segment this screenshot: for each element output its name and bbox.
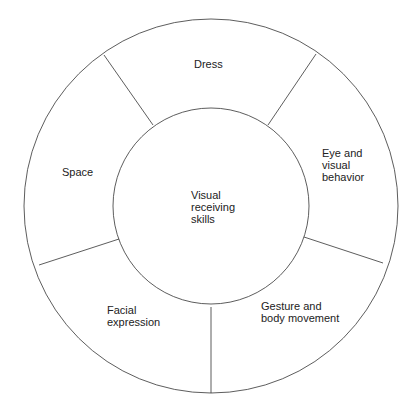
segment-label-gesture-body-movement: Gesture and body movement (261, 300, 339, 324)
divider-dress-eye (268, 54, 316, 125)
segment-label-eye-visual-behavior: Eye and visual behavior (322, 147, 364, 183)
divider-dress-space (104, 55, 153, 125)
segment-label-dress: Dress (194, 58, 223, 70)
divider-eye-gesture (304, 237, 383, 263)
divider-space-facial (39, 239, 119, 265)
segment-label-facial-expression: Facial expression (107, 304, 160, 328)
center-label-visual-receiving-skills: Visual receiving skills (191, 189, 235, 225)
segment-label-space: Space (62, 166, 93, 178)
